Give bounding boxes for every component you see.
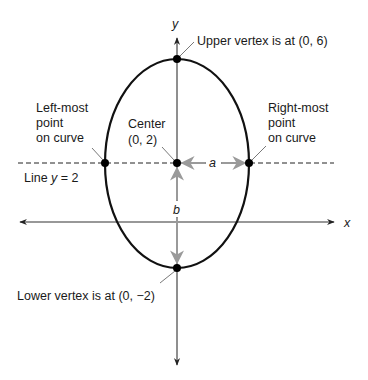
leader-left [92, 148, 103, 160]
a-label: a [209, 156, 216, 170]
leader-lower [160, 271, 175, 283]
left-most-point [101, 159, 109, 167]
upper-vertex-point [173, 55, 181, 63]
center-point [173, 159, 181, 167]
y-axis-label: y [171, 17, 179, 31]
center-label-line2: (0, 2) [128, 133, 157, 147]
leader-upper [180, 42, 194, 56]
lower-vertex-point [173, 264, 181, 272]
lower-vertex-label: Lower vertex is at (0, −2) [17, 289, 155, 303]
left-most-label-line3: on curve [36, 131, 84, 145]
left-most-label-line2: point [36, 116, 64, 130]
left-most-label-line1: Left-most [36, 101, 89, 115]
leader-center [162, 147, 174, 160]
right-most-label-line3: on curve [268, 131, 316, 145]
b-label: b [173, 203, 180, 217]
right-most-label-line2: point [268, 116, 296, 130]
ellipse-diagram: b a y x Upper vertex is at (0, 6) Lower … [0, 0, 368, 380]
leader-right [252, 146, 266, 160]
line-y-2-label: Line y = 2 [24, 171, 79, 185]
right-most-point [245, 159, 253, 167]
right-most-label-line1: Right-most [268, 101, 329, 115]
upper-vertex-label: Upper vertex is at (0, 6) [197, 34, 328, 48]
line-label-prefix: Line [24, 171, 51, 185]
line-label-suffix: = 2 [57, 171, 78, 185]
x-axis-label: x [343, 216, 351, 230]
center-label-line1: Center [128, 117, 166, 131]
